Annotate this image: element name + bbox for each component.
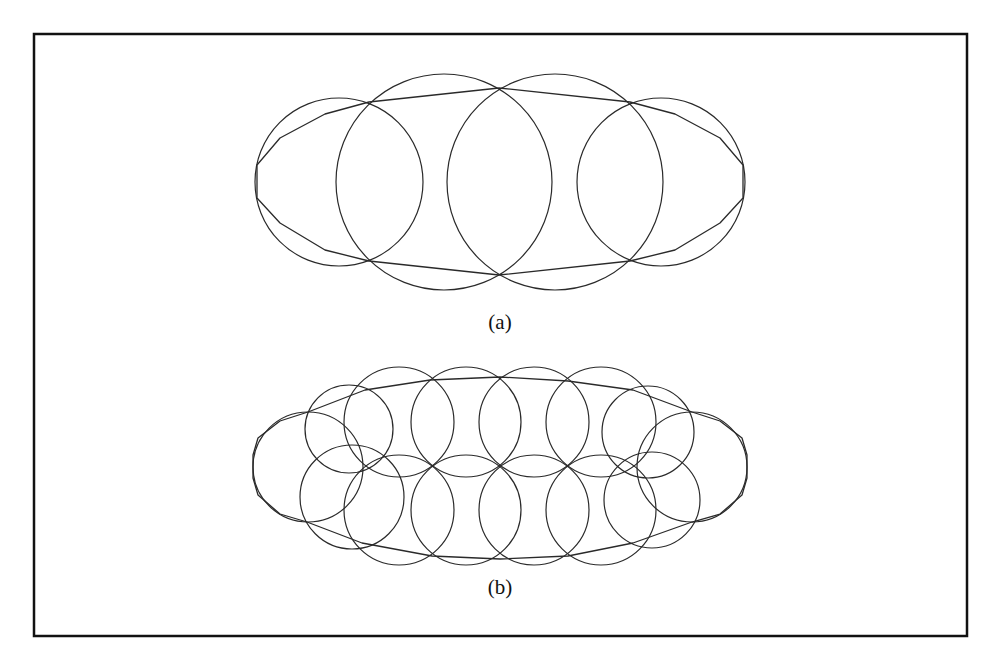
panel-b-circle-cover [253, 367, 747, 565]
panel-b-circle [411, 367, 521, 477]
panel-b-circle [546, 455, 656, 565]
panel-b-circle [344, 455, 454, 565]
panel-b-circle [479, 455, 589, 565]
panel-a-label: (a) [488, 310, 511, 334]
panel-a-circle-cover [255, 74, 745, 290]
panel-b-circle [602, 386, 694, 478]
panel-a-circle [577, 98, 745, 266]
panel-b-circle [604, 452, 700, 548]
panel-b-circle [411, 455, 521, 565]
panel-b-circle [546, 367, 656, 477]
panel-a-circle [447, 74, 663, 290]
panel-b-polygon-outline [253, 377, 747, 559]
panel-a-circle [336, 74, 552, 290]
diagram-figure: (a) (b) [0, 0, 1003, 667]
panel-b-circle [344, 367, 454, 477]
panel-b-circle [479, 367, 589, 477]
figure-frame [34, 34, 967, 636]
panel-a-polygon-outline [257, 88, 743, 275]
panel-b-label: (b) [488, 575, 513, 599]
panel-b-circle [300, 445, 404, 549]
panel-a-circle [255, 98, 423, 266]
